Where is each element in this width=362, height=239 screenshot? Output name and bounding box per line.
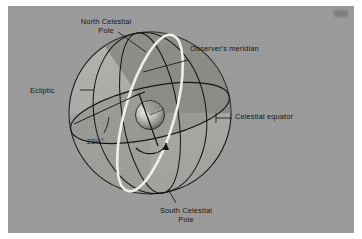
label-ecliptic: Ecliptic [30,86,86,95]
label-obliquity-angle: 23½° [87,137,121,146]
scan-artifact [334,10,348,17]
label-north-celestial-pole: North Celestial Pole [60,17,152,35]
label-south-celestial-pole: South Celestial Pole [138,206,234,224]
label-observers-meridian: Observer's meridian [190,44,300,53]
diagram-plate: North Celestial Pole Observer's meridian… [8,6,354,233]
figure-root: North Celestial Pole Observer's meridian… [0,0,362,239]
label-celestial-equator: Celestial equator [235,112,345,121]
